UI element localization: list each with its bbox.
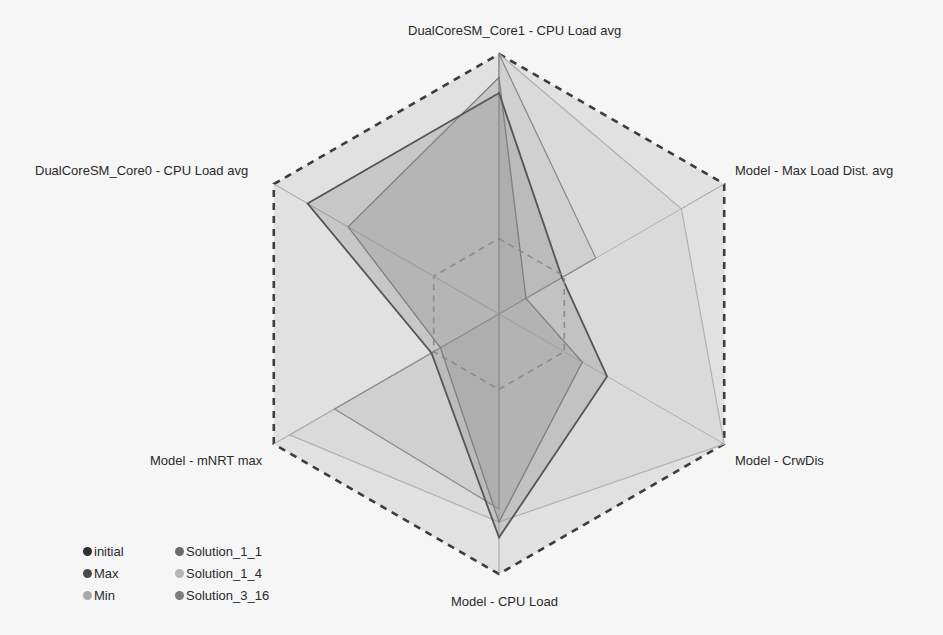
legend-label: Min: [94, 588, 115, 603]
legend-dot-icon: [83, 591, 92, 600]
legend-item-solution-1-1[interactable]: Solution_1_1: [175, 543, 295, 560]
axis-label-mnrt-max: Model - mNRT max: [150, 453, 262, 468]
axis-label-cpu-load: Model - CPU Load: [451, 594, 558, 609]
legend-label: Solution_1_1: [186, 544, 262, 559]
radar-chart: [0, 0, 943, 635]
legend-label: Solution_1_4: [186, 566, 262, 581]
legend-label: Max: [94, 566, 119, 581]
legend-label: Solution_3_16: [186, 588, 269, 603]
legend-dot-icon: [175, 547, 184, 556]
legend-dot-icon: [83, 547, 92, 556]
legend-dot-icon: [175, 591, 184, 600]
axis-label-crwdis: Model - CrwDis: [735, 453, 824, 468]
legend-dot-icon: [175, 569, 184, 578]
axis-label-core1: DualCoreSM_Core1 - CPU Load avg: [408, 23, 621, 38]
legend-dot-icon: [83, 569, 92, 578]
legend-item-solution-3-16[interactable]: Solution_3_16: [175, 587, 295, 604]
axis-label-max-load-dist: Model - Max Load Dist. avg: [735, 163, 893, 178]
legend-item-solution-1-4[interactable]: Solution_1_4: [175, 565, 295, 582]
legend-item-max[interactable]: Max: [83, 565, 175, 582]
legend: initial Solution_1_1 Max Solution_1_4 Mi…: [83, 543, 295, 604]
legend-item-initial[interactable]: initial: [83, 543, 175, 560]
axis-label-core0: DualCoreSM_Core0 - CPU Load avg: [35, 163, 248, 178]
legend-label: initial: [94, 544, 124, 559]
legend-item-min[interactable]: Min: [83, 587, 175, 604]
